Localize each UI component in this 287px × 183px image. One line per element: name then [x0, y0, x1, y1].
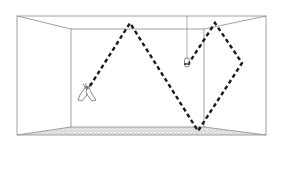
back-wall — [71, 29, 204, 127]
floor-surface — [17, 127, 266, 135]
sound-reflection-path — [90, 23, 242, 131]
clapping-hands-icon — [78, 83, 96, 101]
room-diagram — [0, 0, 287, 183]
perspective-edges — [17, 16, 266, 135]
diagram-canvas — [0, 0, 287, 183]
room-outer-frame — [17, 16, 266, 135]
